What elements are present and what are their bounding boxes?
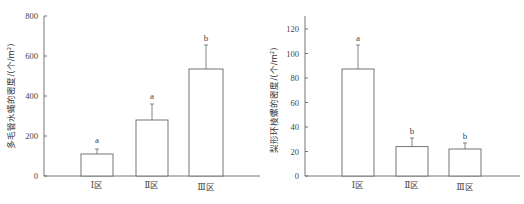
left-ytick-200: 200 — [25, 131, 38, 141]
right-sig-letter-2: b — [410, 126, 415, 136]
left-bar-2 — [136, 120, 168, 176]
right-ytick-40: 40 — [291, 122, 300, 132]
right-ytick-120: 120 — [286, 24, 299, 34]
figure: 多毛管水蝇的密度/(个/m²) 0 200 400 600 800 a — [0, 0, 524, 204]
right-ytick-80: 80 — [291, 73, 300, 83]
right-chart: 梨形环棱螺的密度/(个/m²) 0 20 40 60 80 100 120 a — [269, 16, 520, 192]
left-ytick-600: 600 — [25, 51, 38, 61]
left-ytick-800: 800 — [25, 11, 38, 21]
left-bars: a a b — [81, 33, 223, 176]
right-bars: a b b — [342, 33, 481, 176]
left-xtick-3: Ⅲ区 — [197, 182, 214, 192]
right-sig-letter-3: b — [463, 131, 468, 141]
left-ytick-400: 400 — [25, 91, 38, 101]
left-y-axis-label: 多毛管水蝇的密度/(个/m²) — [6, 43, 16, 148]
right-y-axis-label: 梨形环棱螺的密度/(个/m²) — [269, 47, 279, 152]
right-bar-1 — [342, 69, 374, 176]
left-xtick-1: Ⅰ区 — [91, 180, 103, 190]
right-bar-3 — [449, 149, 481, 176]
right-xtick-1: Ⅰ区 — [352, 180, 364, 190]
right-ytick-0: 0 — [295, 171, 299, 181]
left-ytick-0: 0 — [34, 171, 38, 181]
right-bar-2 — [396, 147, 428, 176]
left-sig-letter-3: b — [204, 33, 209, 43]
left-sig-letter-1: a — [95, 135, 99, 145]
left-xtick-2: Ⅱ区 — [145, 180, 160, 190]
left-sig-letter-2: a — [150, 91, 154, 101]
right-ytick-60: 60 — [291, 98, 300, 108]
left-bar-3 — [189, 69, 223, 176]
right-xtick-3: Ⅲ区 — [456, 182, 473, 192]
right-sig-letter-1: a — [356, 33, 360, 43]
right-xtick-2: Ⅱ区 — [405, 180, 420, 190]
right-ytick-100: 100 — [286, 49, 299, 59]
right-ytick-20: 20 — [291, 147, 300, 157]
left-chart: 多毛管水蝇的密度/(个/m²) 0 200 400 600 800 a — [6, 11, 260, 192]
left-bar-1 — [81, 154, 113, 176]
